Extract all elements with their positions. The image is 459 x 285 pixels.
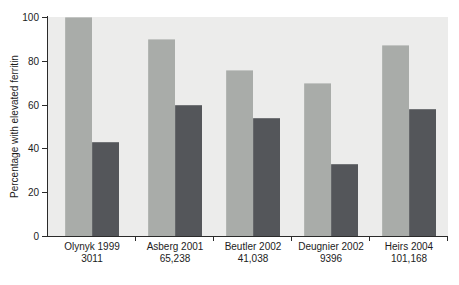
bar-group <box>370 17 448 236</box>
y-axis-tick <box>42 236 47 237</box>
y-axis-tick <box>42 17 47 18</box>
y-axis-tick <box>42 61 47 62</box>
sample-size-label: 9396 <box>292 253 370 265</box>
x-category-label: Heirs 2004101,168 <box>370 241 448 265</box>
y-axis-line <box>47 16 48 237</box>
study-name-label: Olynyk 1999 <box>48 241 136 253</box>
y-tick-label: 0 <box>12 231 39 242</box>
sample-size-label: 101,168 <box>370 253 448 265</box>
study-name-label: Beutler 2002 <box>214 241 292 253</box>
study-name-label: Asberg 2001 <box>136 241 214 253</box>
x-category-label: Asberg 200165,238 <box>136 241 214 265</box>
sample-size-label: 41,038 <box>214 253 292 265</box>
bar-light-gray <box>382 45 409 236</box>
y-axis-tick <box>42 105 47 106</box>
plot-area <box>48 17 448 236</box>
bar-light-gray <box>304 83 331 236</box>
bar-dark-gray <box>92 142 119 236</box>
sample-size-label: 65,238 <box>136 253 214 265</box>
bar-light-gray <box>65 17 92 236</box>
x-category-label: Olynyk 19993011 <box>48 241 136 265</box>
bar-group <box>292 17 370 236</box>
bar-light-gray <box>226 70 253 236</box>
x-axis-line <box>47 236 448 237</box>
y-tick-label: 100 <box>12 12 39 23</box>
bar-group <box>136 17 214 236</box>
y-axis-tick <box>42 192 47 193</box>
y-tick-label: 20 <box>12 187 39 198</box>
y-tick-label: 60 <box>12 100 39 111</box>
bar-light-gray <box>148 39 175 236</box>
x-category-label: Beutler 200241,038 <box>214 241 292 265</box>
y-axis-tick <box>42 148 47 149</box>
study-name-label: Deugnier 2002 <box>292 241 370 253</box>
y-tick-label: 40 <box>12 143 39 154</box>
bar-dark-gray <box>331 164 358 236</box>
y-axis-title: Percentage with elevated ferritin <box>8 17 21 237</box>
study-name-label: Heirs 2004 <box>370 241 448 253</box>
bar-dark-gray <box>409 109 436 236</box>
bar-group <box>48 17 136 236</box>
y-tick-label: 80 <box>12 56 39 67</box>
bar-group <box>214 17 292 236</box>
x-category-label: Deugnier 20029396 <box>292 241 370 265</box>
bar-dark-gray <box>175 105 202 236</box>
bar-chart-figure: Percentage with elevated ferritin 020406… <box>0 0 459 285</box>
bar-dark-gray <box>253 118 280 236</box>
sample-size-label: 3011 <box>48 253 136 265</box>
